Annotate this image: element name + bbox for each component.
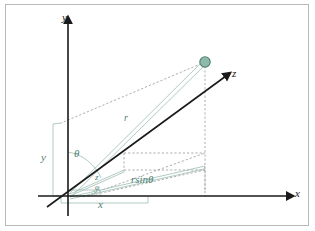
accent-y-bracket-top <box>53 123 61 124</box>
y-component-label: y <box>41 152 46 163</box>
theta-angle-label: θ <box>74 148 79 159</box>
z-axis <box>47 76 226 207</box>
point-marker <box>200 57 210 67</box>
projection-label: rsinθ <box>131 174 154 185</box>
z-component-label: z <box>95 173 99 182</box>
axes-group <box>38 22 288 216</box>
phi-angle-label: φ <box>95 184 99 192</box>
dash-point-to-yplane <box>61 62 205 123</box>
z-axis-label: z <box>232 68 236 79</box>
projection-expr: sinθ <box>135 173 153 185</box>
y-axis-label: y <box>62 12 67 23</box>
x-axis-label: x <box>295 188 300 199</box>
x-component-label: x <box>98 199 103 210</box>
diagram-canvas <box>0 0 315 231</box>
figure-root: y x z y x z r θ φ rsinθ <box>0 0 315 231</box>
accent-construction <box>53 60 206 203</box>
radius-label: r <box>124 113 128 123</box>
